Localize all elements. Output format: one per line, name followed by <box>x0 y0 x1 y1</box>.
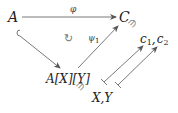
svg-text:ψ1: ψ1 <box>88 33 100 45</box>
label-psi1: ψ1 <box>88 33 100 45</box>
arrow-psi1 <box>78 26 118 68</box>
commutes-icon: ↻ <box>64 32 73 45</box>
svg-text:c1,c2: c1,c2 <box>140 32 168 47</box>
label-phi: φ <box>70 4 77 14</box>
node-c1c2: c1,c2 <box>140 32 168 47</box>
commutative-diagram: A C A[X][Y] X,Y c1,c2 φ ψ1 ↻ ∋ ∋ <box>0 0 178 113</box>
node-XY: X,Y <box>91 91 113 105</box>
maps-to-arrow-2 <box>115 47 157 88</box>
node-A: A <box>6 9 18 25</box>
maps-to-arrow-1 <box>101 46 143 85</box>
hook-arrow-A-to-AXY <box>17 30 60 68</box>
